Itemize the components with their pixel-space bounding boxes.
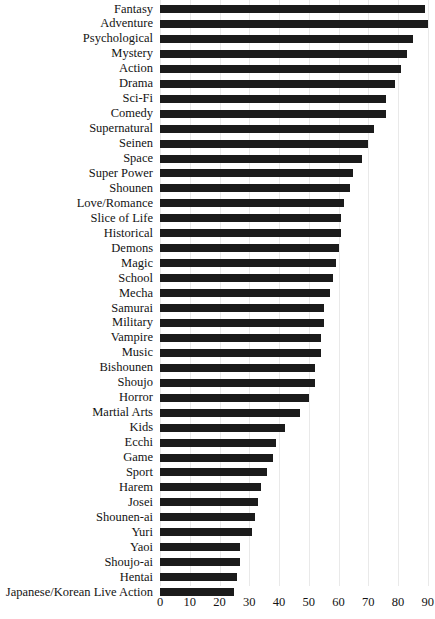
bar: [160, 304, 324, 312]
y-tick-label: Sport: [126, 465, 153, 480]
y-tick-label: Military: [112, 315, 153, 330]
bars-layer: [160, 0, 435, 586]
bar: [160, 334, 321, 342]
bar: [160, 214, 341, 222]
bar: [160, 184, 350, 192]
y-tick-label: Shoujo: [118, 375, 153, 390]
bar: [160, 169, 353, 177]
bar: [160, 528, 252, 536]
bar: [160, 289, 330, 297]
bar-chart: FantasyAdventurePsychologicalMysteryActi…: [0, 0, 435, 619]
y-tick-label: Samurai: [111, 301, 153, 316]
y-tick-label: Bishounen: [100, 360, 153, 375]
bar: [160, 95, 386, 103]
y-tick-label: Yaoi: [130, 540, 153, 555]
bar: [160, 513, 255, 521]
bar: [160, 543, 240, 551]
bar: [160, 125, 374, 133]
y-tick-label: Ecchi: [125, 435, 153, 450]
bar: [160, 140, 368, 148]
bar: [160, 259, 336, 267]
y-tick-label: Music: [122, 345, 153, 360]
bar: [160, 379, 315, 387]
bar: [160, 50, 407, 58]
y-tick-label: Super Power: [89, 166, 153, 181]
bar: [160, 80, 395, 88]
y-tick-label: Shounen-ai: [96, 510, 153, 525]
bar: [160, 364, 315, 372]
y-tick-label: Fantasy: [114, 2, 153, 17]
bar: [160, 199, 344, 207]
y-tick-label: Historical: [104, 226, 153, 241]
y-tick-label: Demons: [111, 241, 153, 256]
bar: [160, 5, 425, 13]
y-tick-label: Supernatural: [89, 121, 153, 136]
y-tick-label: Josei: [128, 495, 153, 510]
y-axis-category-labels: FantasyAdventurePsychologicalMysteryActi…: [0, 0, 157, 586]
bar: [160, 110, 386, 118]
y-tick-label: Comedy: [111, 106, 153, 121]
bar: [160, 409, 300, 417]
x-axis-tick-labels: 0102030405060708090: [160, 590, 435, 619]
y-tick-label: Drama: [119, 76, 153, 91]
y-tick-label: Shoujo-ai: [104, 555, 153, 570]
bar: [160, 394, 309, 402]
y-tick-label: Japanese/Korean Live Action: [6, 585, 153, 600]
y-tick-label: Adventure: [100, 16, 153, 31]
bar: [160, 244, 339, 252]
y-tick-label: Martial Arts: [92, 405, 153, 420]
bar: [160, 573, 237, 581]
bar: [160, 20, 428, 28]
y-tick-label: Love/Romance: [77, 196, 153, 211]
y-tick-label: Game: [123, 450, 153, 465]
y-tick-label: Kids: [129, 420, 153, 435]
bar: [160, 454, 273, 462]
bar: [160, 65, 401, 73]
y-tick-label: Magic: [121, 256, 153, 271]
bar: [160, 424, 285, 432]
y-tick-label: Harem: [119, 480, 153, 495]
y-tick-label: Slice of Life: [91, 211, 153, 226]
bar: [160, 319, 324, 327]
bar: [160, 483, 261, 491]
bar: [160, 35, 413, 43]
plot-area: [160, 0, 435, 586]
y-tick-label: Sci-Fi: [122, 91, 153, 106]
y-tick-label: Shounen: [109, 181, 153, 196]
y-tick-label: Mystery: [111, 46, 153, 61]
y-tick-label: Horror: [119, 390, 153, 405]
bar: [160, 349, 321, 357]
x-tick-label: 90: [408, 594, 435, 610]
y-tick-label: Psychological: [83, 31, 153, 46]
bar: [160, 274, 333, 282]
bar: [160, 439, 276, 447]
bar: [160, 468, 267, 476]
y-tick-label: Action: [119, 61, 153, 76]
bar: [160, 558, 240, 566]
y-tick-label: Space: [123, 151, 153, 166]
bar: [160, 155, 362, 163]
y-tick-label: Mecha: [119, 286, 153, 301]
bar: [160, 229, 341, 237]
y-tick-label: Vampire: [111, 330, 153, 345]
y-tick-label: Seinen: [119, 136, 153, 151]
y-tick-label: Hentai: [120, 570, 153, 585]
bar: [160, 498, 258, 506]
y-tick-label: Yuri: [131, 525, 153, 540]
y-tick-label: School: [118, 271, 153, 286]
